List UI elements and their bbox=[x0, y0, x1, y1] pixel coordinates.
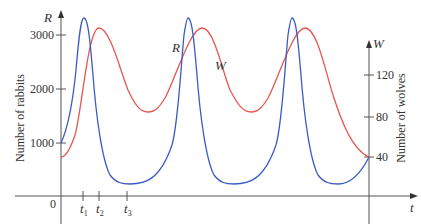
left-tick-2000: 2000 bbox=[30, 82, 54, 96]
rabbits-series-label: R bbox=[171, 40, 180, 55]
t-axis-label: t bbox=[410, 200, 414, 215]
w-axis-arrow-icon bbox=[366, 40, 372, 48]
t-axis-arrow-icon bbox=[410, 193, 418, 199]
r-axis-var-label: R bbox=[43, 10, 52, 25]
right-tick-120: 120 bbox=[376, 68, 394, 82]
left-axis-title: Number of rabbits bbox=[13, 74, 27, 162]
w-axis-var-label: W bbox=[373, 36, 385, 51]
axes bbox=[15, 14, 413, 224]
t-tick-1: t1 bbox=[80, 201, 88, 218]
left-tick-3000: 3000 bbox=[30, 28, 54, 42]
predator-prey-chart: 3000 2000 1000 120 80 40 t1 t2 t3 0 t R … bbox=[0, 0, 421, 224]
right-axis-title: Number of wolves bbox=[394, 73, 408, 163]
wolves-curve bbox=[61, 28, 369, 157]
rabbits-curve bbox=[61, 18, 369, 184]
t-tick-3: t3 bbox=[124, 201, 132, 218]
right-tick-80: 80 bbox=[376, 110, 388, 124]
t-tick-2: t2 bbox=[96, 201, 104, 218]
origin-label: 0 bbox=[50, 197, 56, 211]
right-tick-40: 40 bbox=[376, 150, 388, 164]
r-axis-arrow-icon bbox=[58, 10, 64, 18]
wolves-series-label: W bbox=[215, 58, 227, 73]
left-tick-1000: 1000 bbox=[30, 136, 54, 150]
